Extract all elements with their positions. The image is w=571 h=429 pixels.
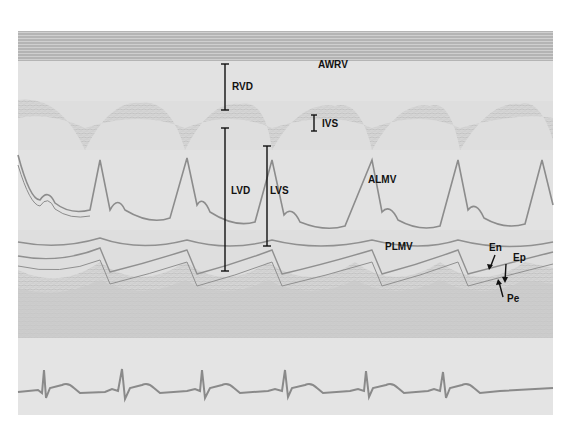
label-rvd: RVD [232, 81, 253, 92]
ecg-strip [18, 338, 553, 415]
label-lvd: LVD [231, 185, 250, 196]
label-awrv: AWRV [318, 59, 348, 70]
label-plmv: PLMV [385, 241, 413, 252]
label-lvs: LVS [270, 185, 289, 196]
label-ivs: IVS [322, 118, 338, 129]
chest-wall-bands [18, 31, 553, 61]
echocardiogram-figure: AWRV RVD IVS LVD LVS ALMV PLMV En Ep Pe [0, 0, 571, 429]
label-en: En [489, 242, 502, 253]
label-pe: Pe [507, 293, 520, 304]
label-ep: Ep [513, 252, 526, 263]
label-almv: ALMV [368, 174, 397, 185]
